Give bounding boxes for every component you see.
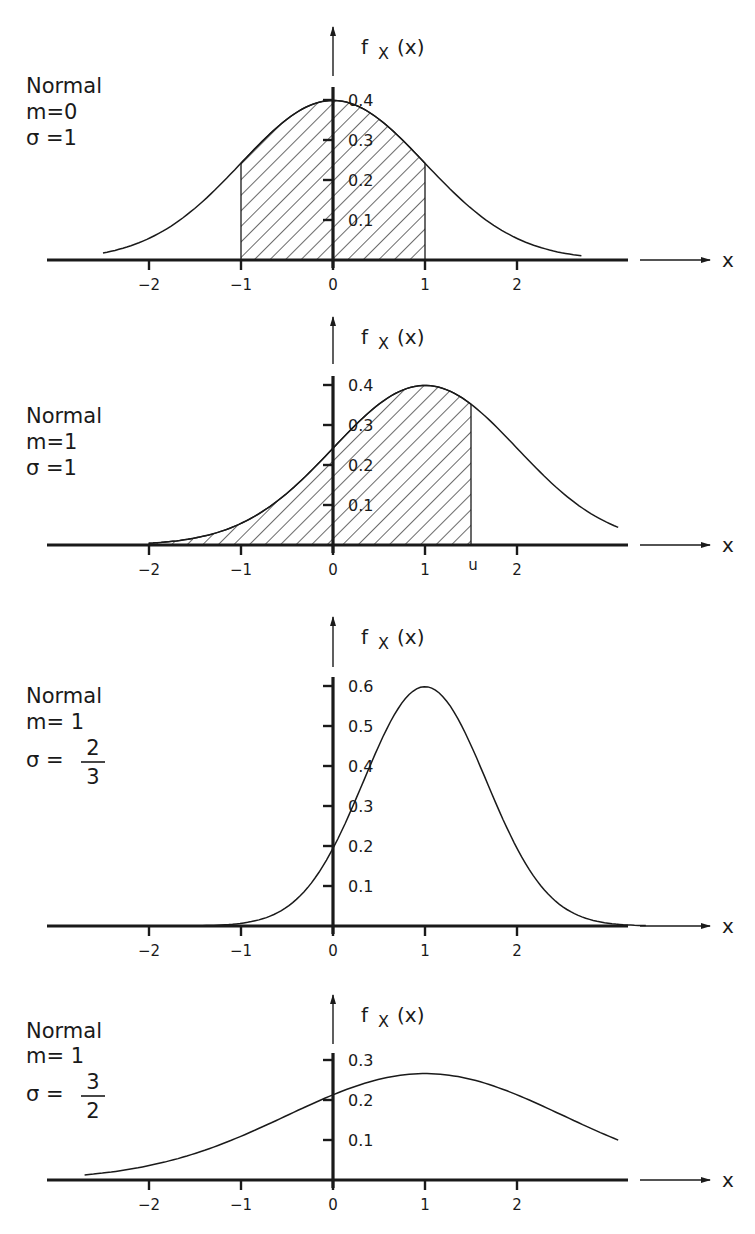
x-tick-label: 2 (512, 276, 522, 294)
panel-2-label: Normal m=1 σ =1 (26, 404, 102, 480)
x-axis-title: x (722, 248, 734, 272)
x-tick-label: −2 (138, 276, 160, 294)
distribution-name: Normal (26, 74, 102, 98)
mean-label: m=1 (26, 430, 77, 454)
distribution-name: Normal (26, 1019, 102, 1043)
y-tick-label: 0.3 (348, 1051, 373, 1070)
y-tick-label: 0.4 (348, 376, 373, 395)
x-tick-label: 1 (420, 561, 430, 579)
distribution-name: Normal (26, 684, 102, 708)
mean-label: m=0 (26, 100, 77, 124)
sigma-label: σ =1 (26, 126, 77, 150)
y-tick-label: 0.2 (348, 171, 373, 190)
y-axis-title-f: f (361, 625, 369, 649)
panel-4-label: Normal m= 1 σ = 3 2 (26, 1019, 105, 1123)
y-tick-label: 0.1 (348, 496, 373, 515)
x-tick-label: −2 (138, 942, 160, 960)
x-tick-label: −1 (230, 561, 252, 579)
x-tick-label: 2 (512, 561, 522, 579)
y-tick-label: 0.2 (348, 456, 373, 475)
y-axis-title-subscript: X (378, 334, 389, 353)
y-tick-label: 0.4 (348, 757, 373, 776)
y-tick-label: 0.3 (348, 797, 373, 816)
y-tick-label: 0.3 (348, 131, 373, 150)
x-tick-label: 0 (328, 942, 338, 960)
x-axis-title: x (722, 1168, 734, 1192)
panel-4: Normal m= 1 σ = 3 2 xfX(x)−2−10120.10.20… (26, 995, 734, 1214)
density-curve (195, 687, 646, 926)
panel-2: Normal m=1 σ =1 xfX(x)−2−10120.10.20.30.… (26, 317, 734, 579)
y-tick-label: 0.3 (348, 416, 373, 435)
x-tick-label: −1 (230, 942, 252, 960)
shaded-area (149, 386, 471, 546)
y-axis-title-arg: (x) (397, 35, 424, 59)
x-tick-label: −1 (230, 1196, 252, 1214)
x-tick-label: −1 (230, 276, 252, 294)
x-tick-label: 0 (328, 1196, 338, 1214)
sigma-numerator: 3 (86, 1070, 99, 1094)
panel-3: Normal m= 1 σ = 2 3 xfX(x)−2−10120.10.20… (26, 617, 734, 960)
y-tick-label: 0.1 (348, 877, 373, 896)
y-tick-label: 0.1 (348, 211, 373, 230)
y-axis-title-subscript: X (378, 44, 389, 63)
x-tick-label: −2 (138, 1196, 160, 1214)
cutoff-u-label: u (468, 556, 478, 574)
axes: xfX(x)−2−10120.10.20.30.40.50.6 (47, 617, 734, 960)
y-axis-title-arg: (x) (397, 1003, 424, 1027)
x-tick-label: 1 (420, 276, 430, 294)
x-axis-title: x (722, 533, 734, 557)
y-tick-label: 0.6 (348, 677, 373, 696)
y-axis-title-f: f (361, 35, 369, 59)
x-tick-label: −2 (138, 561, 160, 579)
y-tick-label: 0.2 (348, 1091, 373, 1110)
density-curve (85, 1074, 619, 1175)
sigma-denominator: 2 (86, 1099, 99, 1123)
distribution-name: Normal (26, 404, 102, 428)
panel-1-label: Normal m=0 σ =1 (26, 74, 102, 150)
mean-label: m= 1 (26, 1044, 84, 1068)
sigma-label: σ = (26, 748, 64, 772)
y-tick-label: 0.1 (348, 1131, 373, 1150)
x-tick-label: 1 (420, 942, 430, 960)
y-axis-title-f: f (361, 1003, 369, 1027)
y-axis-title-f: f (361, 325, 369, 349)
y-tick-label: 0.4 (348, 91, 373, 110)
y-tick-label: 0.5 (348, 717, 373, 736)
x-tick-label: 2 (512, 942, 522, 960)
panel-3-label: Normal m= 1 σ = 2 3 (26, 684, 105, 789)
y-axis-title-arg: (x) (397, 325, 424, 349)
x-tick-label: 2 (512, 1196, 522, 1214)
x-axis-title: x (722, 914, 734, 938)
sigma-label: σ =1 (26, 456, 77, 480)
y-axis-title-arg: (x) (397, 625, 424, 649)
x-tick-label: 0 (328, 561, 338, 579)
figure-canvas: Normal m=0 σ =1 xfX(x)−2−10120.10.20.30.… (0, 0, 755, 1234)
mean-label: m= 1 (26, 710, 84, 734)
x-tick-label: 1 (420, 1196, 430, 1214)
y-axis-title-subscript: X (378, 634, 389, 653)
panel-1: Normal m=0 σ =1 xfX(x)−2−10120.10.20.30.… (26, 27, 734, 294)
sigma-label: σ = (26, 1082, 64, 1106)
y-axis-title-subscript: X (378, 1012, 389, 1031)
y-tick-label: 0.2 (348, 837, 373, 856)
sigma-numerator: 2 (86, 736, 99, 760)
axes: xfX(x)−2−10120.10.20.3 (47, 995, 734, 1214)
sigma-denominator: 3 (86, 765, 99, 789)
x-tick-label: 0 (328, 276, 338, 294)
